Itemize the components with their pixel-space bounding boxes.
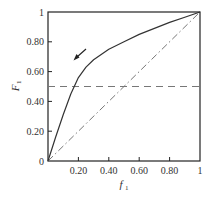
x-tick-0.20: 0.20	[70, 165, 88, 176]
x-ticks	[78, 157, 169, 161]
y-tick-labels: 0 0.20 0.40 0.60 0.80 1	[27, 7, 45, 167]
svg-text:1: 1	[125, 184, 129, 192]
y-tick-0.60: 0.60	[27, 66, 45, 77]
svg-text:1: 1	[15, 80, 23, 84]
diagonal-line	[48, 12, 200, 161]
x-tick-0.60: 0.60	[130, 165, 148, 176]
x-axis-label: f 1	[119, 178, 129, 192]
svg-text:f: f	[119, 178, 124, 190]
x-tick-1: 1	[198, 165, 203, 176]
y-tick-0.20: 0.20	[27, 126, 45, 137]
y-tick-0: 0	[39, 156, 44, 167]
arrow-icon	[74, 49, 87, 61]
y-axis-label: F 1	[9, 80, 23, 92]
chart: 0 0.20 0.40 0.60 0.80 1 0.20 0.40 0.60 0…	[0, 0, 214, 202]
y-tick-1: 1	[39, 7, 44, 18]
x-tick-labels: 0.20 0.40 0.60 0.80 1	[70, 165, 203, 176]
x-tick-0.80: 0.80	[161, 165, 179, 176]
x-tick-0.40: 0.40	[100, 165, 118, 176]
y-tick-0.40: 0.40	[27, 96, 45, 107]
svg-text:F: F	[9, 84, 21, 92]
y-tick-0.80: 0.80	[27, 36, 45, 47]
